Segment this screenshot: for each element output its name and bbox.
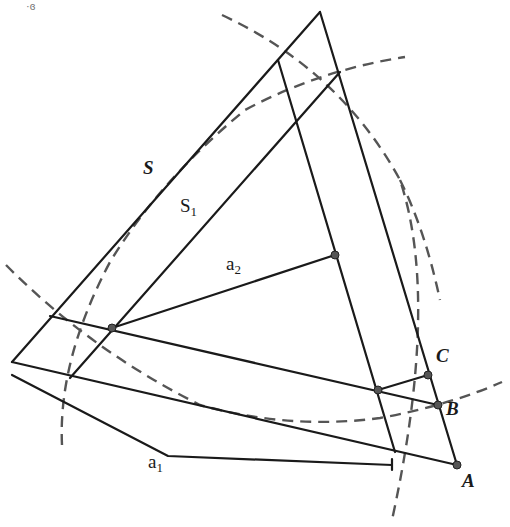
geometry-diagram: ·ɞ bbox=[0, 0, 510, 527]
label-S1-base: S bbox=[180, 195, 191, 216]
labels: S S1 a2 a1 A B C bbox=[143, 157, 475, 491]
point-left bbox=[108, 324, 116, 332]
line-a1 bbox=[12, 375, 392, 465]
point-B bbox=[434, 401, 442, 409]
line-C-bottom bbox=[378, 375, 428, 390]
point-A bbox=[453, 461, 461, 469]
point-bottom bbox=[374, 386, 382, 394]
label-S1: S1 bbox=[180, 195, 197, 219]
label-S: S bbox=[143, 157, 154, 178]
point-C bbox=[424, 371, 432, 379]
label-S1-sub: 1 bbox=[191, 204, 198, 219]
dashed-circles bbox=[6, 15, 502, 520]
label-a1-sub: 1 bbox=[156, 460, 163, 475]
label-A: A bbox=[461, 470, 475, 491]
label-a2: a2 bbox=[226, 253, 241, 277]
dashed-arc-left bbox=[62, 57, 405, 445]
label-a1: a1 bbox=[148, 451, 163, 475]
label-B: B bbox=[445, 398, 459, 419]
label-a2-sub: 2 bbox=[234, 262, 241, 277]
line-bottom-edge bbox=[12, 362, 457, 465]
point-center bbox=[331, 251, 339, 259]
solid-lines bbox=[12, 12, 457, 470]
dashed-arc-lower bbox=[6, 265, 502, 422]
dashed-arc-right bbox=[400, 180, 440, 300]
corner-mark: ·ɞ bbox=[26, 0, 36, 12]
line-right-edge bbox=[320, 12, 457, 465]
label-C: C bbox=[436, 345, 449, 366]
